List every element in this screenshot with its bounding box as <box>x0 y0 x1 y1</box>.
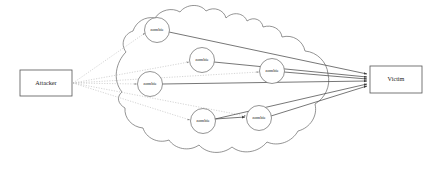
zombie-label-1: zombie <box>150 27 164 32</box>
zombie-node-5[interactable]: zombie <box>191 109 216 134</box>
zombie-label-2: zombie <box>195 57 209 62</box>
control-edges <box>73 33 259 120</box>
ddos-diagram: Attacker Victim zombie zombie zombie zom… <box>0 0 438 170</box>
attack-edge-zombie-5-victim <box>215 84 367 119</box>
zombie-node-2[interactable]: zombie <box>190 48 215 73</box>
zombie-label-4: zombie <box>143 81 157 86</box>
control-edge-attacker-zombie-4 <box>73 83 137 84</box>
control-edge-attacker-zombie-1 <box>73 33 145 83</box>
zombie-label-3: zombie <box>265 68 279 73</box>
attack-edge-zombie-6-victim <box>271 86 367 116</box>
zombie-node-1[interactable]: zombie <box>145 18 170 43</box>
victim-node[interactable]: Victim <box>370 66 422 93</box>
zombie-label-5: zombie <box>196 118 210 123</box>
zombie-label-6: zombie <box>252 115 266 120</box>
control-edge-attacker-zombie-3 <box>73 72 259 83</box>
diagram-canvas: Attacker Victim zombie zombie zombie zom… <box>0 0 438 170</box>
control-edge-attacker-zombie-5 <box>73 83 190 120</box>
attacker-node[interactable]: Attacker <box>20 70 72 96</box>
victim-label: Victim <box>388 75 405 82</box>
zombie-node-3[interactable]: zombie <box>260 59 285 84</box>
zombie-node-4[interactable]: zombie <box>138 72 163 97</box>
attack-edge-zombie-4-victim <box>162 81 367 84</box>
zombie-node-6[interactable]: zombie <box>247 106 272 131</box>
attacker-label: Attacker <box>35 79 56 86</box>
